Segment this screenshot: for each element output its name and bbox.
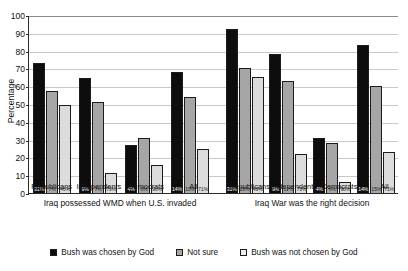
bar-group: 14%10%71% (167, 16, 213, 193)
legend-swatch-icon-0 (50, 249, 57, 256)
legend-label-2: Bush was not chosen by God (251, 248, 358, 257)
bar: 9% (269, 54, 281, 193)
y-axis-tick-label: 20 (16, 153, 25, 163)
y-axis-tick-label: 70 (16, 64, 25, 74)
legend-swatch-icon-1 (176, 249, 183, 256)
bar-set: 14%15%71% (357, 16, 396, 193)
legend-label-0: Bush was chosen by God (61, 248, 154, 257)
legend-label-1: Not sure (187, 248, 218, 257)
y-axis-tick-label: 90 (16, 29, 25, 39)
x-axis-category-label: Republicans (227, 180, 272, 193)
y-axis-tick-label: 60 (16, 82, 25, 92)
bar-group: 31%7%46% (29, 16, 75, 193)
bar: 31% (33, 63, 45, 193)
x-axis-category-label: All (362, 180, 407, 193)
bar-set: 14%10%71% (171, 16, 210, 193)
y-axis-tick-label: 10 (16, 171, 25, 181)
bar: 17% (282, 81, 294, 193)
bar: 15% (370, 86, 382, 193)
y-axis-tick-label: 100 (11, 11, 25, 21)
panel-container: 31%7%46%9%7%73%4%6%90%14%10%71% 31%28%49… (29, 16, 398, 193)
bar-group: 4%6%90% (121, 16, 167, 193)
x-axis-category-label: Independents (272, 180, 317, 193)
bar-group: 31%28%49% (223, 16, 267, 193)
y-axis-tick-mark (26, 194, 29, 195)
bar-set: 4%6%90% (313, 16, 352, 193)
bar-set: 9%17%73% (269, 16, 308, 193)
plot-area: 0102030405060708090100 31%7%46%9%7%73%4%… (28, 16, 398, 194)
x-axis-category-label: All (170, 180, 217, 193)
bar-set: 9%7%73% (79, 16, 118, 193)
bar-set: 31%28%49% (225, 16, 264, 193)
panel-iraq-war: 31%28%49%9%17%73%4%6%90%14%15%71% (223, 16, 398, 193)
bar-chart-figure: Percentage 0102030405060708090100 31%7%4… (0, 0, 408, 271)
legend-swatch-icon-2 (240, 249, 247, 256)
bar: 31% (226, 29, 238, 193)
panel-separator (213, 16, 223, 193)
x-axis-category-label: Democrats (123, 180, 170, 193)
bar-set: 4%6%90% (125, 16, 164, 193)
category-labels-right: RepublicansIndependentsDemocratsAll (227, 180, 407, 193)
category-labels-left: RepublicansIndependentsDemocratsAll (28, 180, 217, 193)
x-axis-category-label: Democrats (317, 180, 362, 193)
legend-item-chosen-by-god: Bush was chosen by God (50, 248, 154, 257)
bar-group: 4%6%90% (310, 16, 354, 193)
panel-wmd: 31%7%46%9%7%73%4%6%90%14%10%71% (29, 16, 213, 193)
x-axis-category-label: Republicans (28, 180, 75, 193)
bar: 28% (239, 68, 251, 193)
chart-legend: Bush was chosen by God Not sure Bush was… (0, 248, 408, 257)
y-axis-tick-label: 40 (16, 118, 25, 128)
bar: 14% (357, 45, 369, 193)
bar: 10% (184, 97, 196, 193)
legend-item-not-sure: Not sure (176, 248, 218, 257)
bar-group: 9%17%73% (267, 16, 311, 193)
panel-caption-left: Iraq possessed WMD when U.S. invaded (20, 196, 220, 210)
bar: 49% (252, 77, 264, 193)
y-axis-tick-label: 80 (16, 47, 25, 57)
legend-item-not-chosen-by-god: Bush was not chosen by God (240, 248, 358, 257)
bar: 9% (79, 78, 91, 193)
y-axis-tick-label: 50 (16, 100, 25, 110)
bar-group: 14%15%71% (354, 16, 398, 193)
y-axis-tick-label: 30 (16, 136, 25, 146)
bar-set: 31%7%46% (33, 16, 72, 193)
bar-group: 9%7%73% (75, 16, 121, 193)
panel-caption-right: Iraq War was the right decision (212, 196, 408, 210)
x-axis-category-label: Independents (75, 180, 122, 193)
bar: 14% (171, 72, 183, 193)
y-axis-title: Percentage (6, 61, 16, 141)
bar: 7% (46, 91, 58, 193)
